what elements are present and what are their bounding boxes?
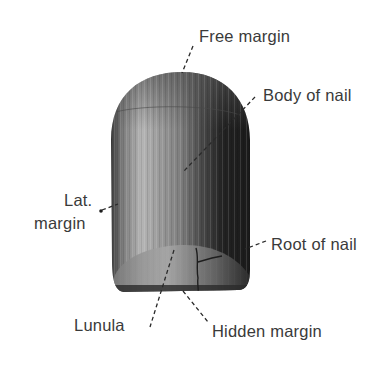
nail-illustration (0, 0, 390, 366)
label-body-of-nail: Body of nail (263, 86, 352, 105)
label-lat-margin-line2: margin (34, 214, 86, 233)
leader-free-margin (182, 46, 193, 73)
label-lat-margin-line1: Lat. (64, 191, 92, 210)
lat-margin-dot (99, 209, 103, 213)
label-hidden-margin: Hidden margin (212, 322, 322, 341)
label-root-of-nail: Root of nail (271, 235, 357, 254)
label-lunula: Lunula (74, 316, 125, 335)
nail-body (100, 70, 260, 300)
nail-diagram: Free margin Body of nail Lat. margin Roo… (0, 0, 390, 366)
label-free-margin: Free margin (199, 27, 290, 46)
leader-hidden-margin (183, 291, 208, 322)
